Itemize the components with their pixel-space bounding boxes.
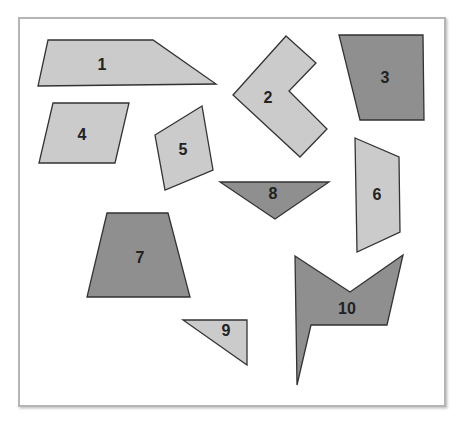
shape-2-label: 2 (264, 89, 273, 106)
shape-1-label: 1 (98, 56, 107, 73)
shape-6-label: 6 (373, 186, 382, 203)
shape-3-label: 3 (381, 69, 390, 86)
shape-10-label: 10 (338, 300, 356, 317)
shape-7-label: 7 (136, 249, 145, 266)
shape-6: 6 (355, 138, 400, 252)
shape-4: 4 (39, 103, 129, 163)
shapes-diagram: 12345678910 (0, 0, 466, 425)
shape-8-label: 8 (269, 185, 278, 202)
shape-4-label: 4 (78, 126, 87, 143)
shape-5-label: 5 (179, 141, 188, 158)
shape-9-label: 9 (222, 322, 231, 339)
